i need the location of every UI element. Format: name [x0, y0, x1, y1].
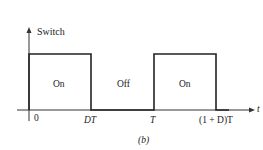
- switch-waveform-diagram: Switch t On Off On 0 DT T (1 + D)T (b): [0, 0, 263, 150]
- x-axis-arrow-icon: [249, 108, 255, 113]
- x-axis-label: t: [257, 105, 260, 115]
- waveform-graphic: [0, 0, 263, 150]
- tick-1-plus-d-t: (1 + D)T: [199, 116, 233, 126]
- y-axis-arrow-icon: [27, 27, 32, 33]
- tick-0: 0: [34, 114, 39, 124]
- tick-t: T: [150, 116, 155, 126]
- region-off: Off: [117, 80, 130, 90]
- tick-dt: DT: [84, 116, 96, 126]
- region-on-1: On: [53, 80, 65, 90]
- y-axis-label: Switch: [37, 27, 65, 37]
- region-on-2: On: [179, 80, 191, 90]
- caption: (b): [138, 136, 149, 146]
